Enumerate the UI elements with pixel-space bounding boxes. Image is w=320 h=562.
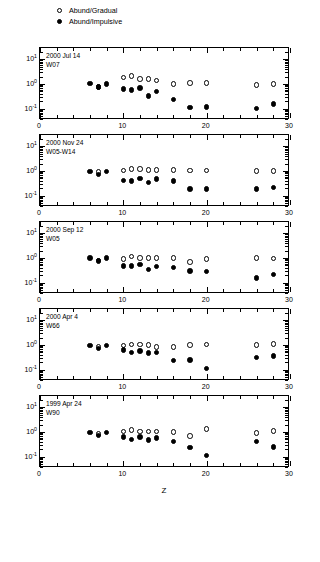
y-tick bbox=[40, 91, 43, 92]
y-tick bbox=[285, 226, 288, 227]
x-tick bbox=[73, 48, 74, 51]
data-point bbox=[154, 350, 160, 356]
data-point bbox=[146, 93, 152, 99]
x-tick bbox=[257, 135, 258, 138]
x-tick bbox=[223, 115, 224, 118]
data-point bbox=[254, 255, 260, 261]
x-tick bbox=[240, 135, 241, 138]
chart-panel-0: 2000 Jul 14W07 bbox=[39, 47, 289, 119]
data-point bbox=[171, 178, 177, 184]
y-tick bbox=[285, 260, 288, 261]
y-tick bbox=[285, 149, 288, 150]
data-point bbox=[271, 353, 277, 359]
y-tick bbox=[285, 139, 288, 140]
data-point bbox=[204, 104, 210, 110]
y-tick bbox=[40, 346, 43, 347]
y-tick bbox=[285, 116, 288, 117]
data-point bbox=[154, 167, 160, 173]
y-tick bbox=[40, 84, 45, 85]
data-point bbox=[87, 430, 93, 436]
plot-area: 2000 Nov 24W05-W14 bbox=[40, 135, 288, 205]
x-tick bbox=[57, 289, 58, 292]
y-tick bbox=[40, 109, 45, 110]
y-tick bbox=[40, 442, 43, 443]
y-tick bbox=[40, 203, 43, 204]
data-point bbox=[129, 427, 135, 433]
y-tick bbox=[285, 262, 288, 263]
data-point bbox=[87, 81, 93, 87]
x-tick bbox=[123, 113, 124, 118]
y-tick bbox=[285, 237, 288, 238]
y-tick bbox=[285, 415, 288, 416]
y-tick bbox=[285, 175, 288, 176]
y-tick bbox=[285, 200, 288, 201]
x-tick bbox=[157, 135, 158, 138]
x-tick-label: 10 bbox=[110, 296, 134, 303]
y-tick bbox=[40, 288, 43, 289]
x-tick bbox=[140, 48, 141, 51]
x-tick bbox=[257, 463, 258, 466]
y-tick bbox=[285, 251, 288, 252]
x-tick bbox=[190, 309, 191, 312]
x-tick bbox=[207, 374, 208, 379]
y-tick bbox=[285, 271, 288, 272]
y-tick bbox=[40, 459, 43, 460]
x-tick-label: 20 bbox=[194, 209, 218, 216]
y-tick bbox=[285, 72, 288, 73]
y-tick bbox=[285, 113, 288, 114]
y-tick bbox=[40, 150, 43, 151]
x-tick bbox=[290, 309, 291, 314]
chart-panel-2: 2000 Sep 12W05 bbox=[39, 221, 289, 293]
y-tick bbox=[40, 251, 43, 252]
x-tick bbox=[190, 222, 191, 225]
y-tick bbox=[40, 197, 43, 198]
y-tick bbox=[40, 449, 43, 450]
data-point bbox=[121, 434, 127, 440]
data-point bbox=[187, 105, 193, 111]
data-point bbox=[187, 445, 193, 451]
x-tick bbox=[207, 461, 208, 466]
y-tick bbox=[40, 355, 43, 356]
data-point bbox=[96, 433, 102, 439]
y-tick bbox=[285, 411, 288, 412]
y-tick bbox=[283, 171, 288, 172]
y-tick bbox=[285, 439, 288, 440]
data-point bbox=[129, 166, 135, 172]
x-tick bbox=[290, 396, 291, 401]
data-point bbox=[171, 167, 177, 173]
y-tick bbox=[285, 371, 288, 372]
x-tick bbox=[257, 48, 258, 51]
data-point bbox=[204, 426, 210, 432]
y-tick bbox=[285, 347, 288, 348]
y-tick-label-text: 100 bbox=[26, 165, 37, 174]
x-tick bbox=[240, 463, 241, 466]
y-tick bbox=[40, 226, 43, 227]
data-point bbox=[254, 342, 260, 348]
x-tick bbox=[207, 113, 208, 118]
y-tick bbox=[40, 321, 43, 322]
x-tick-label: 0 bbox=[27, 209, 51, 216]
data-point bbox=[87, 343, 93, 349]
y-tick bbox=[40, 374, 43, 375]
y-tick bbox=[285, 85, 288, 86]
data-point bbox=[187, 357, 193, 363]
y-tick bbox=[40, 352, 43, 353]
data-point bbox=[154, 435, 160, 441]
y-tick bbox=[40, 467, 43, 468]
y-tick-label-text: 100 bbox=[26, 252, 37, 261]
data-point bbox=[154, 429, 160, 435]
y-tick bbox=[285, 62, 288, 63]
y-tick bbox=[285, 69, 288, 70]
panel-date: 2000 Sep 12 bbox=[46, 226, 83, 235]
y-tick bbox=[285, 326, 288, 327]
data-point bbox=[121, 347, 127, 353]
x-tick bbox=[107, 48, 108, 51]
y-tick bbox=[283, 146, 288, 147]
y-tick bbox=[283, 320, 288, 321]
y-tick bbox=[40, 328, 43, 329]
y-tick bbox=[285, 445, 288, 446]
x-tick bbox=[107, 396, 108, 399]
x-tick bbox=[107, 222, 108, 225]
y-tick bbox=[40, 77, 43, 78]
y-tick bbox=[40, 330, 43, 331]
